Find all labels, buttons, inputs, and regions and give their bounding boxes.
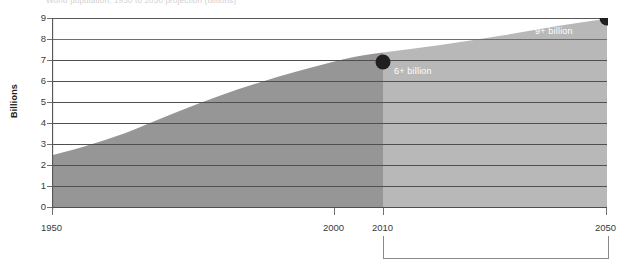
y-tick-label-8: 8 bbox=[24, 34, 46, 44]
y-tick-label-6: 6 bbox=[24, 76, 46, 86]
y-tick-label-9: 9 bbox=[24, 13, 46, 23]
y-tick-label-3: 3 bbox=[24, 139, 46, 149]
y-axis-title: Billions bbox=[9, 71, 19, 131]
y-tick-label-2: 2 bbox=[24, 160, 46, 170]
x-tick-label-2050: 2050 bbox=[595, 222, 616, 233]
projection-bracket-label bbox=[383, 259, 607, 269]
projection-bracket bbox=[383, 236, 609, 259]
population-area-chart: World population, 1950 to 2050 projectio… bbox=[0, 0, 631, 271]
x-tick-label-2000: 2000 bbox=[323, 222, 344, 233]
x-tick-label-1950: 1950 bbox=[41, 222, 62, 233]
x-tick-mark-2010 bbox=[383, 208, 384, 215]
x-tick-label-2010: 2010 bbox=[372, 222, 393, 233]
plot-area bbox=[52, 18, 607, 208]
y-tick-label-1: 1 bbox=[24, 181, 46, 191]
x-tick-mark-2000 bbox=[334, 208, 335, 215]
marker-2050-label: 9+ billion bbox=[535, 26, 573, 36]
x-tick-mark-1950 bbox=[52, 208, 53, 215]
y-tick-label-5: 5 bbox=[24, 97, 46, 107]
plot-svg bbox=[52, 18, 608, 210]
marker-2010-label: 6+ billion bbox=[394, 66, 432, 76]
x-tick-mark-2050 bbox=[606, 208, 607, 215]
y-tick-label-7: 7 bbox=[24, 55, 46, 65]
area-historical bbox=[52, 52, 383, 208]
chart-title: World population, 1950 to 2050 projectio… bbox=[46, 0, 366, 6]
marker-2010-dot bbox=[376, 55, 391, 70]
y-tick-label-0: 0 bbox=[24, 202, 46, 212]
y-tick-label-4: 4 bbox=[24, 118, 46, 128]
